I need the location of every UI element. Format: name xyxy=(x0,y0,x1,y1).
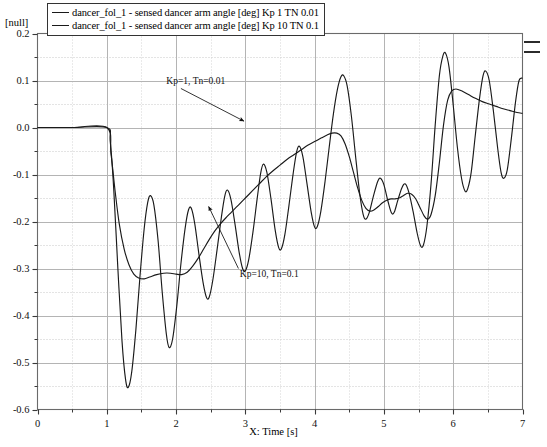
axis-ticks xyxy=(33,35,524,415)
legend-label-1: dancer_fol_1 - sensed dancer arm angle [… xyxy=(72,19,319,32)
y-tick-label: -0.5 xyxy=(13,357,30,368)
plot-frame xyxy=(38,34,523,410)
y-tick-label: -0.6 xyxy=(13,404,30,415)
y-tick-label: 0.2 xyxy=(16,28,29,39)
legend-item-1: dancer_fol_1 - sensed dancer arm angle [… xyxy=(52,19,319,32)
y-tick-label: -0.2 xyxy=(13,216,30,227)
legend-line-swatch-1 xyxy=(52,25,69,26)
legend-line-swatch-0 xyxy=(52,12,69,13)
x-axis-title: X: Time [s] xyxy=(0,426,547,437)
y-tick-label: -0.1 xyxy=(13,169,30,180)
legend-label-0: dancer_fol_1 - sensed dancer arm angle [… xyxy=(72,6,319,19)
chart-annotation-label-1: Kp=10, Tn=0.1 xyxy=(240,269,299,279)
y-tick-label: 0.0 xyxy=(16,122,29,133)
plot-canvas: 0.20.10.0-0.1-0.2-0.3-0.4-0.5-0.60123456… xyxy=(0,0,547,447)
axis-tick-labels: 0.20.10.0-0.1-0.2-0.3-0.4-0.5-0.60123456… xyxy=(13,28,525,428)
grid-major-lines xyxy=(38,34,523,410)
legend-item-0: dancer_fol_1 - sensed dancer arm angle [… xyxy=(52,6,319,19)
chart-root: dancer_fol_1 - sensed dancer arm angle [… xyxy=(0,0,547,447)
right-marker-dash-top xyxy=(524,41,540,43)
grid-minor-lines xyxy=(38,34,523,410)
y-tick-label: -0.4 xyxy=(13,310,30,321)
right-marker-dash-bottom xyxy=(524,51,540,53)
y-tick-label: 0.1 xyxy=(16,75,29,86)
chart-legend: dancer_fol_1 - sensed dancer arm angle [… xyxy=(47,3,325,36)
chart-annotation-arrow-0 xyxy=(181,88,244,121)
y-tick-label: -0.3 xyxy=(13,263,30,274)
y-axis-unit-label: [null] xyxy=(5,17,28,28)
chart-annotation-label-0: Kp=1, Tn=0.01 xyxy=(166,76,225,86)
